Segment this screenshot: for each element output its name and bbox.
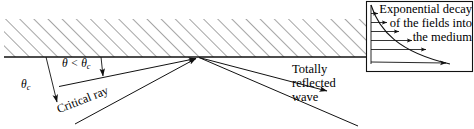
angle-label-theta-less-than-subscript: c (87, 62, 91, 71)
hatched-medium (4, 19, 366, 57)
inset-caption-label: Exponential decay of the fields into the… (372, 2, 472, 44)
normal-theta-c-line (46, 57, 57, 102)
angle-label-theta-less-than-theta-c: θ < θc (62, 57, 90, 71)
angle-label-theta-less-than-symbol: θ < θ (62, 57, 87, 69)
total-internal-reflection-diagram: θc θ < θc Critical ray Totally reflected… (0, 0, 474, 129)
totally-reflected-wave-label: Totally reflected wave (292, 62, 358, 104)
field-arrow-6 (371, 62, 446, 63)
angle-label-theta-c-subscript: c (27, 83, 31, 92)
normal-theta-line (101, 57, 103, 76)
angle-label-theta-c: θc (21, 78, 30, 92)
